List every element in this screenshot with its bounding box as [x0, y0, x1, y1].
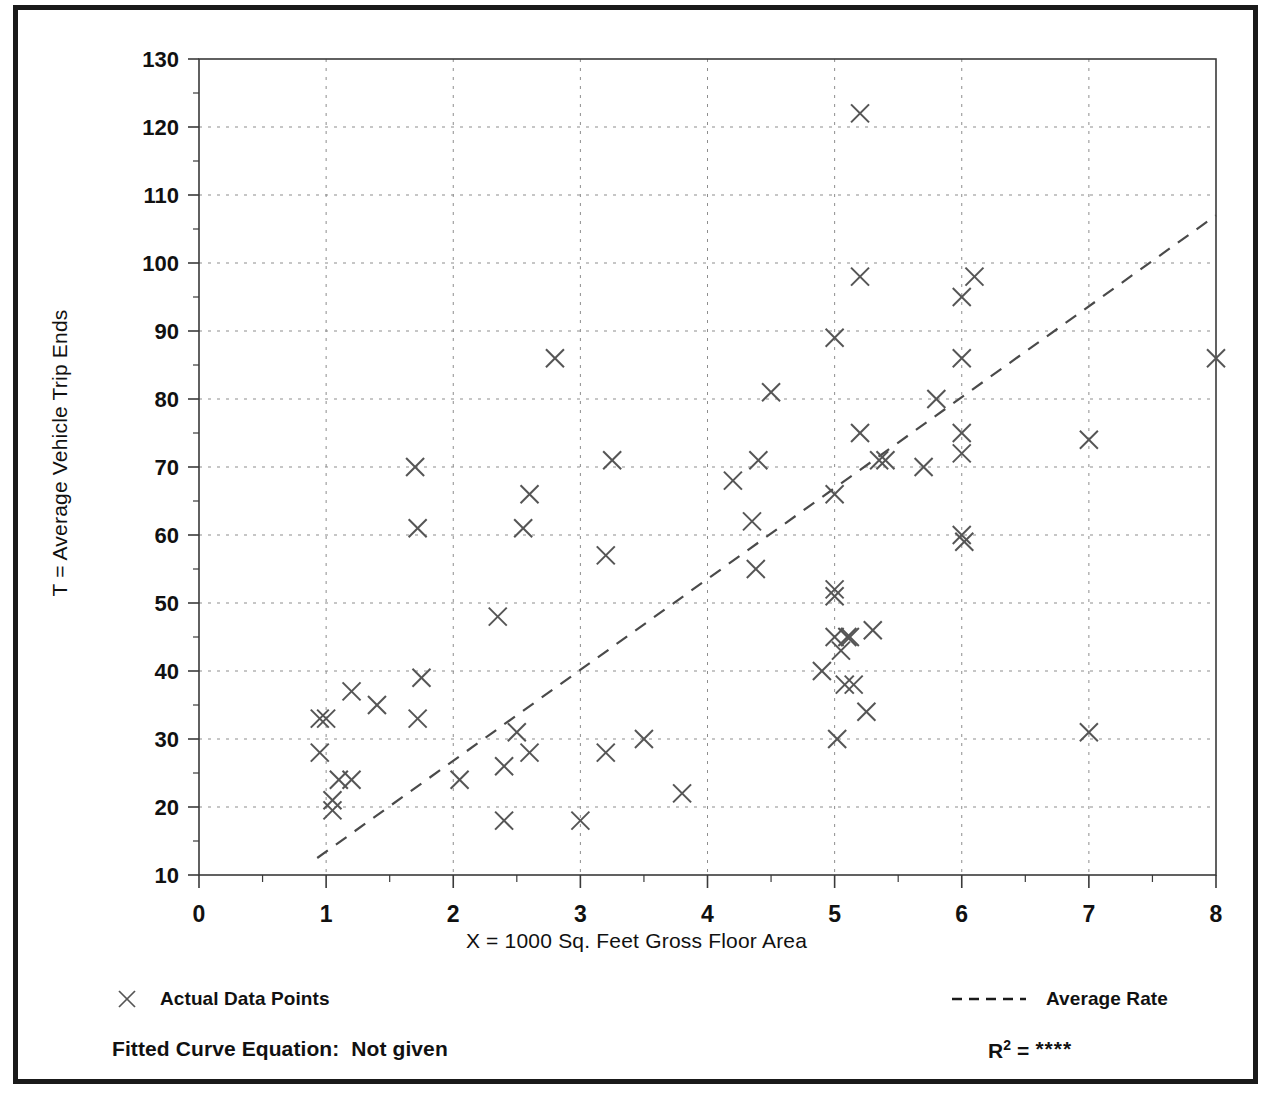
x-axis-tick-label: 4: [701, 901, 714, 927]
y-axis-tick-label: 100: [142, 251, 179, 276]
y-axis-tick-label: 50: [155, 591, 179, 616]
data-point-marker: [841, 628, 859, 646]
y-axis-tick-label: 80: [155, 387, 179, 412]
data-point-marker: [965, 268, 983, 286]
fitted-curve-equation: Fitted Curve Equation: Not given: [112, 1037, 448, 1061]
x-axis-tick-label: 6: [955, 901, 968, 927]
data-point-marker: [489, 608, 507, 626]
data-point-marker: [603, 451, 621, 469]
legend-item-actual-data-points: Actual Data Points: [112, 982, 330, 1016]
y-axis-tick-label: 40: [155, 659, 179, 684]
data-point-marker: [864, 621, 882, 639]
data-point-marker: [412, 669, 430, 687]
r-squared-value: R2 = ****: [988, 1037, 1072, 1063]
y-axis-tick-label: 10: [155, 863, 179, 888]
y-axis-tick-label: 110: [144, 183, 180, 208]
data-point-marker: [673, 784, 691, 802]
data-point-marker: [495, 812, 513, 830]
data-point-marker: [343, 682, 361, 700]
data-point-marker: [597, 546, 615, 564]
data-point-marker: [813, 662, 831, 680]
dashed-line-icon: [950, 987, 1028, 1011]
legend-label-actual-data-points: Actual Data Points: [160, 988, 330, 1010]
grid-layer: [199, 59, 1216, 875]
y-axis-tick-label: 70: [155, 455, 179, 480]
data-point-marker: [521, 744, 539, 762]
data-point-marker: [851, 268, 869, 286]
y-axis-tick-label: 60: [155, 523, 179, 548]
chart-legend: Actual Data Points Average Rate: [0, 982, 1273, 1016]
y-axis-title: T = Average Vehicle Trip Ends: [48, 310, 72, 597]
data-point-marker: [762, 383, 780, 401]
data-point-marker: [851, 104, 869, 122]
data-point-marker: [747, 560, 765, 578]
y-axis-tick-label: 120: [142, 115, 179, 140]
x-axis-tick-label: 2: [447, 901, 460, 927]
x-axis-tick-label: 0: [193, 901, 206, 927]
data-point-marker: [495, 757, 513, 775]
r-squared-prefix: R: [988, 1039, 1003, 1062]
y-axis-tick-label: 30: [155, 727, 179, 752]
x-axis-tick-label: 1: [320, 901, 333, 927]
data-point-marker: [343, 771, 361, 789]
data-point-marker: [546, 349, 564, 367]
axis-layer: [188, 59, 1216, 888]
data-point-marker: [953, 349, 971, 367]
data-point-marker: [743, 512, 761, 530]
data-point-marker: [409, 710, 427, 728]
y-axis-tick-label: 90: [155, 319, 179, 344]
x-axis-tick-label: 8: [1210, 901, 1223, 927]
data-point-marker: [851, 424, 869, 442]
x-axis-tick-label: 3: [574, 901, 587, 927]
average-rate-line: [317, 215, 1216, 858]
x-axis-tick-label: 7: [1082, 901, 1095, 927]
data-point-marker: [845, 676, 863, 694]
chart-footer: Fitted Curve Equation: Not given R2 = **…: [0, 1035, 1273, 1075]
y-axis-tick-label: 20: [155, 795, 179, 820]
x-axis-title: X = 1000 Sq. Feet Gross Floor Area: [0, 929, 1273, 953]
data-point-marker: [521, 485, 539, 503]
y-axis-title-wrapper: T = Average Vehicle Trip Ends: [48, 193, 72, 713]
legend-label-average-rate: Average Rate: [1046, 988, 1168, 1010]
r-squared-equals: =: [1011, 1039, 1035, 1062]
x-axis-tick-label: 5: [828, 901, 841, 927]
data-point-marker: [323, 801, 341, 819]
data-point-marker: [323, 791, 341, 809]
data-point-marker: [836, 676, 854, 694]
average-rate-trendline: [317, 215, 1216, 858]
data-point-marker: [368, 696, 386, 714]
data-point-marker: [724, 472, 742, 490]
y-axis-tick-label: 130: [142, 47, 179, 72]
r-squared-stars: ****: [1035, 1037, 1072, 1060]
figure-page: 102030405060708090100110120130012345678 …: [0, 0, 1273, 1098]
r-squared-exponent: 2: [1003, 1037, 1011, 1053]
data-point-marker: [857, 703, 875, 721]
data-point-marker: [597, 744, 615, 762]
legend-item-average-rate: Average Rate: [950, 982, 1168, 1016]
x-marker-icon: [112, 987, 142, 1011]
